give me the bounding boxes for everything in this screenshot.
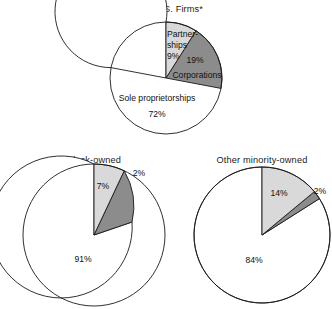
chart-other-minority-owned: Other minority-owned 14% 2% 84%: [194, 155, 330, 303]
label-partnerships-line2: ships: [167, 40, 187, 50]
pie-chart-figure: Total U. S. Firms* Partner- ships 9% 19%…: [0, 0, 332, 309]
label-other-white-pct: 84%: [245, 255, 263, 265]
pie-charts-svg: Total U. S. Firms* Partner- ships 9% 19%…: [0, 0, 332, 309]
label-partnerships-line1: Partner-: [167, 29, 198, 39]
label-partnerships-pct: 9%: [167, 51, 180, 61]
label-black-owned-light-pct: 7%: [97, 181, 110, 191]
label-black-owned-white-pct: 91%: [74, 254, 92, 264]
label-sole-proprietorships-pct: 72%: [148, 109, 166, 119]
label-other-dark-pct: 2%: [314, 186, 327, 196]
label-other-light-pct: 14%: [270, 188, 288, 198]
label-black-owned-dark-pct: 2%: [133, 168, 146, 178]
label-sole-proprietorships: Sole proprietorships: [119, 93, 195, 103]
label-corporations-pct: 19%: [186, 55, 204, 65]
chart-black-owned: Black-owned 7% 2% 91%: [0, 155, 165, 306]
chart-total-us-firms: Total U. S. Firms* Partner- ships 9% 19%…: [55, 0, 222, 134]
chart-title-other-minority-owned: Other minority-owned: [217, 155, 308, 165]
label-corporations: Corporations: [172, 70, 221, 80]
